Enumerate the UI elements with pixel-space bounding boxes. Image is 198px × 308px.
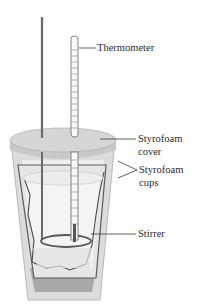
cover-label-line1: Styrofoam — [138, 133, 182, 145]
stirrer-label: Stirrer — [138, 228, 165, 240]
styrofoam-cover — [10, 128, 116, 159]
calorimeter-diagram: Thermometer Styrofoam cover Styrofoam cu… — [0, 0, 198, 308]
inner-styrofoam-cup — [18, 165, 106, 278]
thermometer-label: Thermometer — [97, 42, 154, 54]
cups-label-line2: cups — [139, 177, 158, 189]
cover-label-line2: cover — [138, 146, 161, 158]
cups-label-line1: Styrofoam — [139, 164, 183, 176]
